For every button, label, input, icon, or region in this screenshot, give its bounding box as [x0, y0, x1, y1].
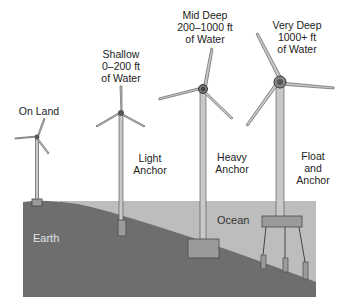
label-line: 200–1000 ft: [170, 21, 240, 33]
label-line: Shallow: [92, 48, 150, 60]
label-mid-deep: Mid Deep 200–1000 ft of Water: [170, 9, 240, 45]
label-line: of Water: [170, 33, 240, 45]
label-very-deep: Very Deep 1000+ ft of Water: [264, 19, 330, 55]
label-line: Anchor: [209, 163, 255, 175]
label-line: Anchor: [288, 174, 338, 186]
label-shallow: Shallow 0–200 ft of Water: [92, 48, 150, 84]
label-on-land: On Land: [14, 105, 64, 117]
label-line: Float: [288, 150, 338, 162]
label-line: On Land: [14, 105, 64, 117]
label-light-anchor: Light Anchor: [127, 152, 173, 176]
label-line: and: [288, 162, 338, 174]
label-line: Very Deep: [264, 19, 330, 31]
label-float-and-anchor: Float and Anchor: [288, 150, 338, 186]
label-line: 1000+ ft: [264, 31, 330, 43]
label-ocean: Ocean: [217, 214, 249, 226]
label-line: Anchor: [127, 164, 173, 176]
label-line: of Water: [264, 43, 330, 55]
label-earth: Earth: [33, 232, 59, 244]
label-heavy-anchor: Heavy Anchor: [209, 151, 255, 175]
label-line: 0–200 ft: [92, 60, 150, 72]
label-line: Mid Deep: [170, 9, 240, 21]
label-line: Light: [127, 152, 173, 164]
turbine-on-land: [15, 118, 49, 206]
label-line: of Water: [92, 72, 150, 84]
label-line: Heavy: [209, 151, 255, 163]
